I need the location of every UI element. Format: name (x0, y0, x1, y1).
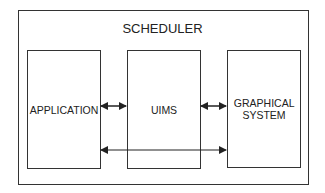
edges-layer (0, 0, 325, 193)
